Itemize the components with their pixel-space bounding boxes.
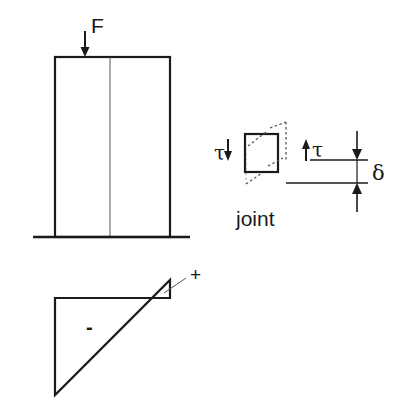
- joint-label: joint: [235, 207, 275, 230]
- force-arrow: F: [81, 14, 104, 57]
- deformed-edge-bottom: [268, 158, 283, 166]
- plus-label: +: [190, 264, 201, 285]
- joint-square: [245, 134, 278, 172]
- tau-right-label: τ: [312, 138, 323, 162]
- arrow-down-icon: [81, 47, 90, 57]
- column-outline: [55, 57, 170, 237]
- force-label: F: [91, 14, 104, 37]
- stress-diagram: + -: [55, 264, 201, 395]
- minus-label: -: [86, 316, 93, 338]
- deformed-edge-bottom2: [246, 173, 262, 184]
- stress-diagram-outline: [55, 280, 170, 395]
- delta-label: δ: [372, 161, 385, 185]
- structural-diagram: F τ τ δ joint + -: [0, 0, 406, 418]
- arrow-down-icon: [352, 149, 362, 160]
- deformed-edge-top2: [270, 122, 286, 128]
- arrow-up-icon: [302, 139, 310, 149]
- arrow-up-icon: [352, 183, 362, 194]
- leader-line: [164, 278, 186, 293]
- column: [55, 57, 170, 237]
- arrow-down-icon: [224, 151, 232, 161]
- tau-left-label: τ: [214, 141, 225, 165]
- joint-element: τ τ δ joint: [214, 122, 385, 230]
